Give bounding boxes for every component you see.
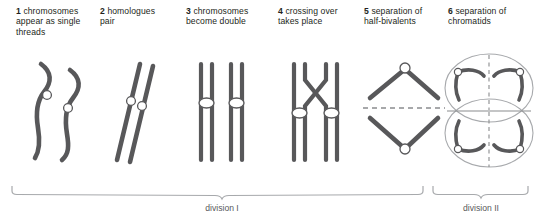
centromere-icon [138,102,147,111]
chromatid-bottom-left-leg [456,121,459,149]
chromatid-top-right-leg [519,72,522,100]
single-threads-icon [35,64,79,160]
centromere-icon [516,68,523,75]
centromere-icon [229,98,244,108]
bracket-label-division-2: division II [432,203,530,213]
centromere-group-stage3 [199,98,244,108]
centromere-icon [400,144,410,154]
bracket-division-1 [12,186,423,199]
centromere-icon [292,108,307,118]
bracket-division-2 [433,186,528,198]
meiosis-illustrations [0,0,536,221]
chromatid-bottom-right-leg [519,121,522,149]
half-bivalent-separation-icon [370,70,438,148]
centromere-group-stage1 [43,91,73,113]
centromere-icon [516,145,523,152]
centromere-icon [324,108,339,118]
centromere-icon [199,98,214,108]
centromere-group-stage4 [292,108,339,118]
bracket-label-division-1: division I [172,203,272,213]
centromere-icon [454,68,461,75]
meiosis-diagram: 1chromosomes appear as single threads 2h… [0,0,536,221]
chromatid-top-left-leg [456,72,459,100]
centromere-icon [400,63,410,73]
double-chromosomes-icon [201,64,242,160]
chromatid-separation-icon [445,54,533,167]
centromere-icon [43,91,52,100]
centromere-icon [127,97,136,106]
centromere-icon [64,104,73,113]
paired-homologues-icon [117,64,153,162]
centromere-icon [454,145,461,152]
